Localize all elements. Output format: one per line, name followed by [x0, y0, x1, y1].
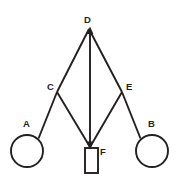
edge-e-to-f	[90, 92, 122, 147]
mass-circle-b	[136, 135, 168, 167]
label-apex-d: D	[84, 15, 91, 25]
block-rectangle-f	[85, 148, 98, 173]
edge-c-to-a	[39, 92, 58, 139]
label-junction-e: E	[126, 82, 132, 92]
diagram-svg	[0, 0, 179, 184]
figure-canvas: D C E A B F	[0, 0, 179, 184]
edge-d-to-e	[89, 29, 122, 92]
label-mass-a: A	[23, 119, 30, 129]
label-mass-b: B	[148, 119, 155, 129]
mass-circle-a	[11, 135, 43, 167]
edge-e-to-b	[122, 92, 141, 139]
label-block-f: F	[100, 147, 106, 157]
label-junction-c: C	[47, 82, 54, 92]
edge-d-to-c	[57, 29, 89, 92]
edge-c-to-f	[57, 92, 90, 147]
